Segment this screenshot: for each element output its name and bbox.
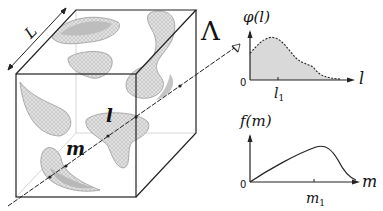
plot-phi-xlabel: l: [359, 69, 364, 88]
plot-f-tick-m1: m1: [306, 190, 325, 208]
plot-f-origin: 0: [240, 179, 246, 190]
plot-phi-title: φ(l): [243, 8, 270, 26]
edge-label-L: L: [20, 22, 41, 43]
plot-phi-origin: 0: [240, 77, 246, 88]
plot-phi-tick-l1: l1: [274, 85, 284, 103]
plot-f-title: f(m): [239, 112, 272, 130]
segment-label-m: m: [66, 138, 85, 159]
blob-center-saddle: [86, 113, 149, 168]
diagram-canvas: L Λ m l φ(l) 0 l l1 f(m) 0 m m: [0, 0, 383, 211]
mesh-surfaces: [20, 11, 175, 191]
plot-phi: φ(l) 0 l l1: [240, 8, 364, 103]
plot-phi-area: [250, 37, 340, 80]
segment-label-l: l: [106, 105, 113, 126]
blob-left-horn: [20, 82, 71, 136]
plot-f-curve: [250, 146, 356, 182]
plot-f-xlabel: m: [362, 172, 377, 191]
plot-f: f(m) 0 m m1: [239, 112, 377, 208]
line-label-lambda: Λ: [200, 16, 221, 46]
